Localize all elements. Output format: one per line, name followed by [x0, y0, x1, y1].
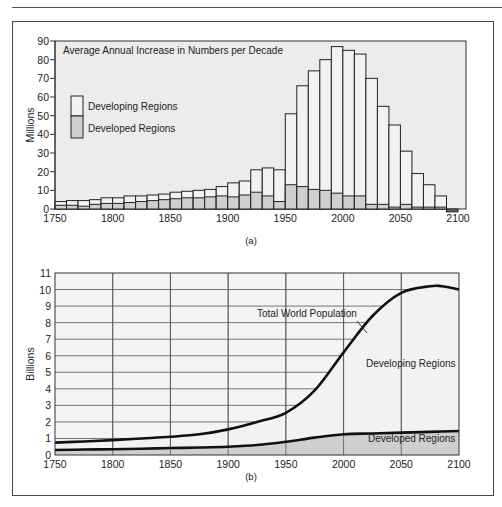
- y-tick-label: 80: [37, 54, 49, 66]
- x-tick-label: 2100: [447, 458, 471, 470]
- chart-b-y-label: Billions: [24, 347, 36, 380]
- chart-a-caption: (a): [245, 235, 257, 246]
- bar-developed: [423, 207, 435, 209]
- y-tick-label: 3: [45, 399, 51, 411]
- y-tick-label: 10: [37, 184, 49, 196]
- bar-developed: [147, 201, 159, 209]
- y-tick-label: 40: [37, 128, 49, 140]
- bar-developed: [239, 195, 251, 209]
- chart-b-x-axis: 17501800185019001950200020502100: [43, 458, 471, 470]
- y-tick-label: 20: [37, 166, 49, 178]
- bar-developing: [389, 125, 401, 209]
- y-tick-label: 30: [37, 147, 49, 159]
- y-tick-label: 5: [45, 366, 51, 378]
- chart-b-caption: (b): [245, 471, 257, 482]
- bar-developed: [136, 202, 148, 209]
- chart-a-title: Average Annual Increase in Numbers per D…: [63, 45, 283, 56]
- bar-developed: [320, 190, 332, 209]
- x-tick-label: 2050: [390, 458, 414, 470]
- bar-developed: [412, 207, 424, 209]
- bar-developed: [251, 192, 263, 209]
- figure-canvas: 0102030405060708090 17501800185019001950…: [0, 0, 502, 507]
- x-tick-label: 1950: [274, 212, 298, 224]
- bar-developed: [159, 200, 171, 209]
- chart-a-y-axis: 0102030405060708090: [37, 35, 55, 215]
- y-tick-label: 60: [37, 91, 49, 103]
- bar-developed: [274, 202, 286, 209]
- bar-developed: [55, 205, 67, 209]
- y-tick-label: 50: [37, 110, 49, 122]
- bar-developing: [308, 71, 320, 209]
- bar-developed: [262, 196, 274, 209]
- y-tick-label: 9: [45, 300, 51, 312]
- annotation-developing-regions: Developing Regions: [366, 358, 456, 369]
- bar-developed: [343, 196, 355, 209]
- y-tick-label: 4: [45, 383, 51, 395]
- y-tick-label: 70: [37, 72, 49, 84]
- bar-developed: [67, 205, 79, 209]
- bar-developed: [377, 204, 389, 209]
- x-tick-label: 1850: [159, 458, 183, 470]
- bar-developed: [400, 204, 412, 209]
- bar-developed: [90, 204, 102, 209]
- bar-developed: [228, 197, 240, 209]
- bar-developing: [377, 106, 389, 209]
- x-tick-label: 1750: [43, 212, 67, 224]
- bar-developed: [170, 199, 182, 209]
- y-tick-label: 11: [40, 267, 51, 279]
- bar-developed: [101, 203, 113, 209]
- chart-a: 0102030405060708090 17501800185019001950…: [24, 35, 470, 246]
- x-tick-label: 2000: [332, 458, 356, 470]
- bar-developed: [389, 207, 401, 209]
- chart-a-y-label: Millions: [24, 107, 36, 142]
- bar-developed: [124, 202, 136, 209]
- x-tick-label: 1800: [101, 212, 125, 224]
- y-tick-label: 90: [37, 35, 49, 47]
- x-tick-label: 1900: [216, 212, 240, 224]
- bar-developed: [366, 204, 378, 209]
- x-tick-label: 1900: [216, 458, 240, 470]
- bar-developed: [435, 207, 447, 209]
- bar-developed: [78, 206, 90, 209]
- annotation-developed-regions: Developed Regions: [368, 433, 455, 444]
- bar-developing: [412, 174, 424, 209]
- chart-b-y-axis: 01234567891011: [39, 267, 51, 461]
- bar-developing: [423, 185, 435, 209]
- bar-developing: [343, 50, 355, 209]
- legend-label-developing: Developing Regions: [88, 101, 178, 112]
- chart-b: 01234567891011 1750180018501900195020002…: [24, 267, 471, 482]
- annotation-total-world-population: Total World Population: [257, 308, 357, 319]
- x-tick-label: 1950: [274, 458, 298, 470]
- legend-swatch-developing: [71, 96, 83, 116]
- x-tick-label: 2050: [389, 212, 413, 224]
- bar-developed: [182, 198, 194, 209]
- bar-developed: [331, 193, 343, 209]
- bar-developing: [354, 54, 366, 209]
- bar-developed: [354, 196, 366, 209]
- x-tick-label: 2100: [446, 212, 470, 224]
- y-tick-label: 2: [45, 416, 51, 428]
- y-tick-label: 1: [45, 432, 51, 444]
- bar-developed: [285, 185, 297, 209]
- bar-developed: [113, 203, 125, 209]
- bar-developed: [297, 187, 309, 209]
- bar-developing: [320, 60, 332, 209]
- bar-developed: [216, 196, 228, 209]
- bar-developing: [331, 47, 343, 209]
- x-tick-label: 1800: [101, 458, 125, 470]
- bar-developed: [308, 189, 320, 209]
- x-tick-label: 1850: [158, 212, 182, 224]
- x-tick-label: 2000: [331, 212, 355, 224]
- y-tick-label: 8: [45, 317, 51, 329]
- bar-developing: [366, 78, 378, 209]
- y-tick-label: 6: [45, 350, 51, 362]
- legend-swatch-developed: [71, 116, 83, 138]
- x-tick-label: 1750: [43, 458, 67, 470]
- legend-label-developed: Developed Regions: [88, 123, 175, 134]
- y-tick-label: 7: [45, 333, 51, 345]
- chart-a-x-axis: 17501800185019001950200020502100: [43, 212, 470, 224]
- y-tick-label: 10: [39, 284, 51, 296]
- bar-developed: [205, 197, 217, 209]
- bar-developing: [400, 151, 412, 209]
- bar-developed: [193, 198, 205, 209]
